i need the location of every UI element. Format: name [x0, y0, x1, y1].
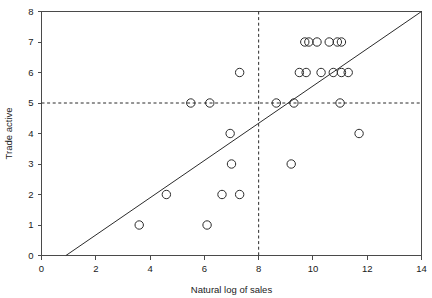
- data-point: [287, 160, 295, 168]
- y-tick-label: 4: [28, 128, 33, 139]
- data-point: [227, 160, 235, 168]
- x-axis-title: Natural log of sales: [191, 284, 273, 295]
- diagonal-line: [66, 12, 422, 256]
- x-tick-label: 8: [256, 263, 261, 274]
- data-point: [235, 68, 243, 76]
- data-point: [226, 129, 234, 137]
- data-point: [235, 190, 243, 198]
- data-point: [355, 129, 363, 137]
- data-point: [218, 190, 226, 198]
- y-tick-label: 6: [28, 67, 33, 78]
- x-tick-label: 2: [93, 263, 98, 274]
- data-point: [317, 68, 325, 76]
- data-point: [313, 38, 321, 46]
- y-tick-label: 8: [28, 6, 33, 17]
- axes-frame: [42, 12, 422, 256]
- x-tick-label: 10: [308, 263, 319, 274]
- data-point: [325, 38, 333, 46]
- y-tick-label: 0: [28, 250, 33, 261]
- x-tick-label: 0: [39, 263, 44, 274]
- x-tick-label: 12: [362, 263, 373, 274]
- y-axis: 012345678Trade active: [3, 6, 42, 261]
- x-axis: 02468101214Natural log of sales: [39, 256, 427, 295]
- data-point: [162, 190, 170, 198]
- plot-canvas: 02468101214Natural log of sales012345678…: [0, 0, 432, 298]
- data-point: [203, 221, 211, 229]
- x-tick-label: 4: [147, 263, 152, 274]
- y-tick-label: 3: [28, 158, 33, 169]
- y-axis-title: Trade active: [3, 108, 14, 160]
- plot-border: [42, 12, 422, 256]
- reference-lines: [42, 12, 422, 256]
- scatter-plot-figure: 02468101214Natural log of sales012345678…: [0, 0, 432, 298]
- x-tick-label: 6: [202, 263, 207, 274]
- data-points: [135, 38, 363, 229]
- y-tick-label: 7: [28, 36, 33, 47]
- axis-spines: [42, 12, 422, 256]
- y-tick-label: 2: [28, 189, 33, 200]
- y-tick-label: 5: [28, 97, 33, 108]
- x-tick-label: 14: [416, 263, 427, 274]
- y-tick-label: 1: [28, 219, 33, 230]
- data-point: [135, 221, 143, 229]
